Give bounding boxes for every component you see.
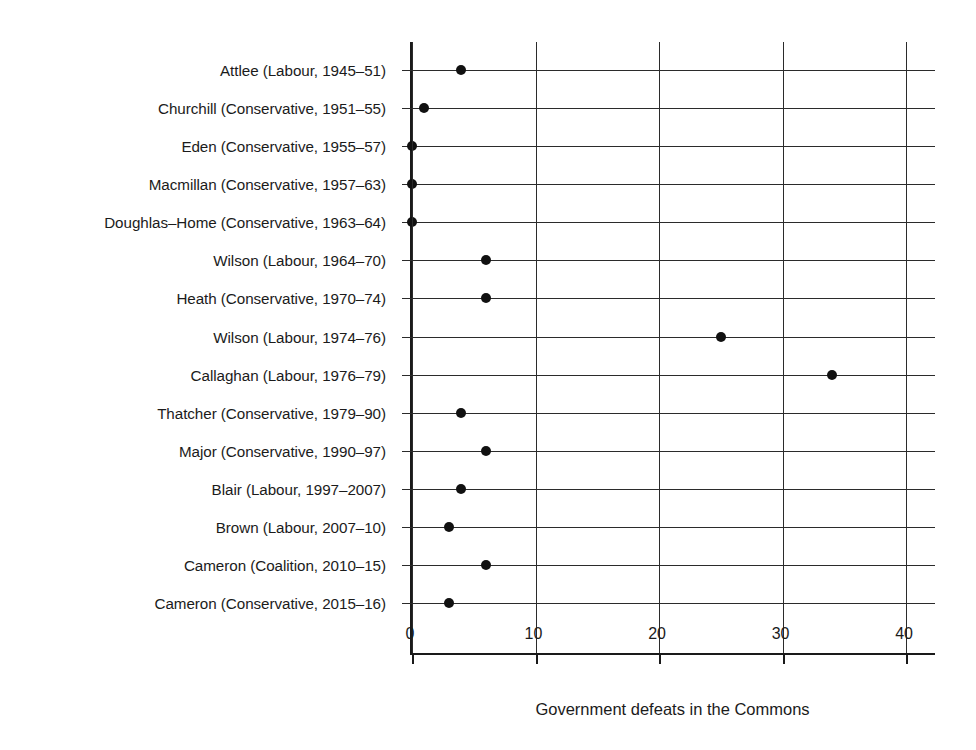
data-point[interactable]: [481, 560, 491, 570]
data-point[interactable]: [827, 370, 837, 380]
x-axis-tick: [906, 655, 908, 664]
data-point[interactable]: [456, 408, 466, 418]
x-axis-tick: [412, 655, 414, 664]
y-axis-tick: [402, 603, 412, 604]
category-label: Heath (Conservative, 1970–74): [176, 290, 386, 307]
y-axis-tick: [402, 70, 412, 71]
category-label: Cameron (Coalition, 2010–15): [184, 556, 386, 573]
category-label: Doughlas–Home (Conservative, 1963–64): [104, 214, 386, 231]
gridline-horizontal: [412, 184, 935, 185]
x-axis-tick-label: 20: [648, 625, 666, 643]
data-point[interactable]: [481, 293, 491, 303]
data-point[interactable]: [444, 598, 454, 608]
x-axis-tick-label: 0: [406, 625, 415, 643]
category-label: Macmillan (Conservative, 1957–63): [149, 176, 386, 193]
category-label: Attlee (Labour, 1945–51): [220, 62, 386, 79]
gridline-horizontal: [412, 603, 935, 604]
dot-chart: Prime Minister Attlee (Labour, 1945–51)C…: [0, 0, 976, 750]
data-point[interactable]: [456, 65, 466, 75]
gridline-vertical: [536, 42, 537, 653]
gridline-horizontal: [412, 108, 935, 109]
category-label: Major (Conservative, 1990–97): [179, 442, 386, 459]
gridline-vertical: [412, 42, 413, 653]
category-label: Wilson (Labour, 1974–76): [213, 328, 386, 345]
category-label: Brown (Labour, 2007–10): [216, 518, 386, 535]
data-point[interactable]: [481, 255, 491, 265]
gridline-horizontal: [412, 489, 935, 490]
gridline-horizontal: [412, 527, 935, 528]
gridline-horizontal: [412, 146, 935, 147]
y-axis-tick: [402, 298, 412, 299]
x-axis-tick: [536, 655, 538, 664]
y-axis-tick: [402, 527, 412, 528]
gridline-horizontal: [412, 222, 935, 223]
x-axis-tick-label: 40: [895, 625, 913, 643]
gridline-vertical: [659, 42, 660, 653]
data-point[interactable]: [481, 446, 491, 456]
gridline-horizontal: [412, 337, 935, 338]
data-point[interactable]: [419, 103, 429, 113]
y-axis-tick: [402, 565, 412, 566]
x-axis-tick: [659, 655, 661, 664]
y-axis-tick: [402, 451, 412, 452]
y-axis-tick: [402, 108, 412, 109]
gridline-horizontal: [412, 375, 935, 376]
category-label: Thatcher (Conservative, 1979–90): [157, 404, 386, 421]
category-label: Blair (Labour, 1997–2007): [212, 480, 386, 497]
x-axis-title: Government defeats in the Commons: [410, 700, 935, 719]
category-label-list: Attlee (Labour, 1945–51)Churchill (Conse…: [0, 42, 398, 655]
category-label: Cameron (Conservative, 2015–16): [155, 595, 386, 612]
gridline-vertical: [906, 42, 907, 653]
data-point[interactable]: [716, 332, 726, 342]
data-point[interactable]: [456, 484, 466, 494]
category-label: Callaghan (Labour, 1976–79): [191, 366, 386, 383]
x-axis-tick-label: 10: [525, 625, 543, 643]
x-axis-tick: [783, 655, 785, 664]
y-axis-tick: [402, 260, 412, 261]
category-label: Wilson (Labour, 1964–70): [213, 252, 386, 269]
data-point[interactable]: [444, 522, 454, 532]
plot-area: [410, 42, 935, 655]
y-axis-tick: [402, 337, 412, 338]
category-label: Churchill (Conservative, 1951–55): [158, 100, 386, 117]
category-label: Eden (Conservative, 1955–57): [181, 138, 386, 155]
gridline-horizontal: [412, 413, 935, 414]
x-axis-tick-label: 30: [772, 625, 790, 643]
y-axis-tick: [402, 413, 412, 414]
gridline-horizontal: [412, 70, 935, 71]
y-axis-tick: [402, 489, 412, 490]
y-axis-tick: [402, 375, 412, 376]
gridline-vertical: [783, 42, 784, 653]
